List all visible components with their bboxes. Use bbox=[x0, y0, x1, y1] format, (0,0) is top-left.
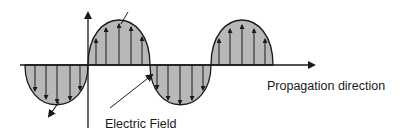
diagram-canvas bbox=[0, 0, 409, 140]
field-lobe-up-1 bbox=[88, 20, 150, 65]
field-lobe-up-2 bbox=[211, 20, 273, 65]
electric-field-label: Electric Field bbox=[105, 117, 177, 131]
field-lobe-down-2 bbox=[150, 65, 211, 105]
field-lobe-down-1 bbox=[25, 65, 88, 105]
electric-field-leader-arrow bbox=[110, 75, 152, 108]
propagation-direction-label: Propagation direction bbox=[267, 79, 385, 93]
